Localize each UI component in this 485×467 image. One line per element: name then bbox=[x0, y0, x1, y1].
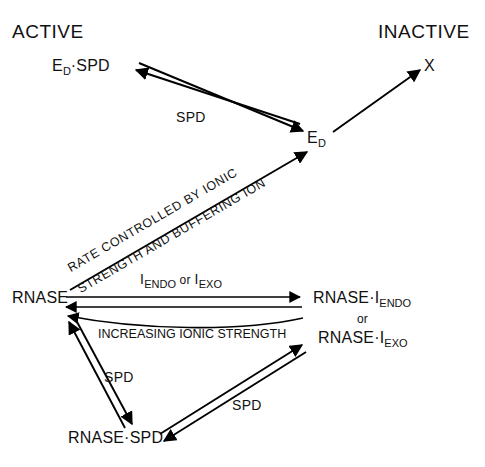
i-endo-exo-or: or bbox=[176, 273, 195, 287]
node-ed: ED bbox=[307, 130, 326, 146]
arrow-rnasespd-to-rnasei bbox=[160, 345, 302, 434]
i-exo-sub: EXO bbox=[199, 278, 222, 290]
arrow-rnasei-to-rnase-curved bbox=[68, 316, 303, 328]
node-rnase-i-exo: RNASE·IEXO bbox=[318, 330, 408, 346]
node-or-separator: or bbox=[357, 313, 368, 325]
edge-label-increasing-ionic-strength: INCREASING IONIC STRENGTH bbox=[98, 328, 286, 341]
edge-label-rate-controlled-line1: RATE CONTROLLED BY IONIC bbox=[66, 166, 240, 274]
arrow-ed-to-edspd bbox=[136, 70, 300, 124]
node-rnase-spd: RNASE·SPD bbox=[68, 430, 163, 446]
arrow-edspd-to-ed bbox=[139, 63, 303, 131]
node-ed-spd-tail: ·SPD bbox=[71, 57, 110, 74]
arrow-ed-to-x bbox=[333, 70, 420, 132]
node-rnase-i-endo: RNASE·IENDO bbox=[313, 290, 411, 306]
node-rnase-i-exo-sub: EXO bbox=[384, 337, 407, 349]
node-x: X bbox=[424, 58, 435, 74]
node-rnase-i-endo-sub: ENDO bbox=[379, 297, 411, 309]
i-endo-sub: ENDO bbox=[144, 278, 176, 290]
node-ed-spd-sub: D bbox=[63, 65, 71, 77]
edge-label-spd-top: SPD bbox=[176, 110, 206, 124]
node-rnase-i-endo-main: RNASE·I bbox=[313, 289, 379, 306]
edge-label-spd-right: SPD bbox=[232, 398, 262, 412]
header-inactive: INACTIVE bbox=[378, 22, 470, 41]
node-rnase: RNASE bbox=[12, 290, 68, 306]
node-ed-main: E bbox=[307, 129, 318, 146]
node-ed-spd-main: E bbox=[52, 57, 63, 74]
edge-label-spd-left: SPD bbox=[104, 370, 134, 384]
reaction-scheme-diagram: ACTIVE INACTIVE ED·SPD ED X RNASE RNASE·… bbox=[0, 0, 485, 467]
header-active: ACTIVE bbox=[12, 22, 84, 41]
node-rnase-i-exo-main: RNASE·I bbox=[318, 329, 384, 346]
node-ed-spd: ED·SPD bbox=[52, 58, 110, 74]
node-ed-sub: D bbox=[318, 137, 326, 149]
edge-label-i-endo-or-i-exo: IENDO or IEXO bbox=[140, 272, 222, 286]
